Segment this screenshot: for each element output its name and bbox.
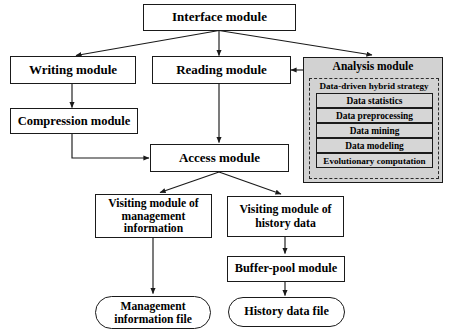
analysis-module-title: Analysis module: [304, 60, 442, 72]
edge-interface-writing: [76, 31, 219, 56]
node-visiting-module-history[interactable]: Visiting module of history data: [227, 196, 344, 237]
analysis-item-data-mining[interactable]: Data mining: [316, 123, 433, 138]
analysis-item-data-modeling[interactable]: Data modeling: [316, 138, 433, 153]
edge-access-visiting-management: [160, 172, 219, 193]
node-buffer-pool-module[interactable]: Buffer-pool module: [227, 256, 345, 282]
edge-interface-analysis: [219, 31, 372, 56]
analysis-item-data-statistics[interactable]: Data statistics: [316, 93, 433, 108]
node-interface-module[interactable]: Interface module: [143, 4, 296, 31]
edge-access-visiting-history: [219, 172, 281, 194]
analysis-item-evolutionary-computation[interactable]: Evolutionary computation: [316, 153, 433, 168]
node-visiting-module-management[interactable]: Visiting module of management informatio…: [95, 194, 212, 238]
data-driven-hybrid-strategy-group[interactable]: Data-driven hybrid strategy Data statist…: [309, 78, 439, 179]
node-history-data-file[interactable]: History data file: [228, 297, 345, 327]
node-writing-module[interactable]: Writing module: [10, 56, 136, 84]
edge-compression-access: [72, 134, 149, 158]
analysis-item-data-preprocessing[interactable]: Data preprocessing: [316, 108, 433, 123]
node-compression-module[interactable]: Compression module: [10, 108, 138, 134]
node-analysis-module[interactable]: Analysis module Data-driven hybrid strat…: [303, 57, 443, 183]
architecture-diagram: Interface module Writing module Reading …: [0, 0, 451, 336]
strategy-label: Data-driven hybrid strategy: [310, 81, 438, 91]
node-management-information-file[interactable]: Management information file: [95, 296, 211, 329]
node-access-module[interactable]: Access module: [150, 144, 289, 172]
node-reading-module[interactable]: Reading module: [152, 56, 291, 84]
